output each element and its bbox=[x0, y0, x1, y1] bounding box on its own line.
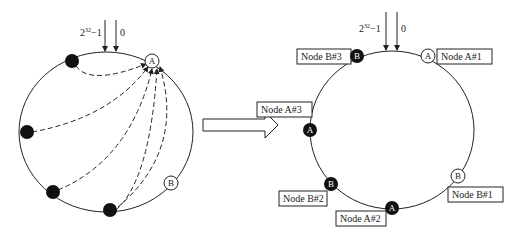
svg-text:Node B#2: Node B#2 bbox=[283, 193, 324, 204]
svg-text:A: A bbox=[307, 125, 314, 135]
virtual-node-b3: Node B#3 B bbox=[297, 49, 364, 64]
svg-text:Node B#3: Node B#3 bbox=[301, 51, 342, 62]
svg-text:B: B bbox=[168, 178, 174, 188]
data-key-dot bbox=[65, 54, 79, 68]
max-hash-label: 232−1 bbox=[359, 23, 381, 34]
data-key-dot bbox=[103, 203, 117, 217]
data-key-dot bbox=[46, 185, 60, 199]
zero-hash-label: 0 bbox=[120, 27, 125, 38]
svg-text:A: A bbox=[149, 56, 156, 66]
data-key-dot bbox=[20, 125, 34, 139]
virtual-node-a1: A Node A#1 bbox=[421, 49, 492, 64]
virtual-node-a2: A Node A#2 bbox=[336, 201, 399, 226]
svg-text:A: A bbox=[425, 51, 432, 61]
node-b: B bbox=[164, 176, 178, 190]
consistent-hashing-diagram: 232−1 0 A B 232−1 bbox=[0, 0, 516, 237]
left-hash-ring: 232−1 0 A B bbox=[19, 20, 193, 217]
svg-text:Node A#3: Node A#3 bbox=[261, 104, 302, 115]
node-a: A bbox=[145, 54, 159, 68]
svg-text:Node B#1: Node B#1 bbox=[452, 189, 493, 200]
right-hash-ring: 232−1 0 Node B#3 B A Node A#1 Node A#3 A… bbox=[257, 12, 503, 226]
svg-text:Node A#1: Node A#1 bbox=[441, 51, 482, 62]
svg-text:Node A#2: Node A#2 bbox=[340, 213, 381, 224]
virtual-node-b1: B Node B#1 bbox=[448, 169, 503, 202]
svg-text:B: B bbox=[455, 171, 461, 181]
zero-hash-label: 0 bbox=[401, 23, 406, 34]
svg-text:B: B bbox=[354, 51, 360, 61]
svg-text:B: B bbox=[328, 179, 334, 189]
svg-text:A: A bbox=[389, 203, 396, 213]
max-hash-label: 232−1 bbox=[80, 27, 102, 38]
virtual-node-b2: B Node B#2 bbox=[279, 177, 338, 206]
